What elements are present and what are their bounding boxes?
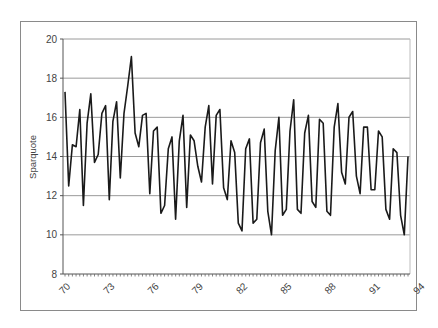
x-tick-label: 79	[190, 280, 206, 296]
sparquote-series-line	[65, 57, 408, 235]
y-tick-label: 16	[46, 112, 58, 123]
x-axis: 707376798285889194	[57, 274, 427, 296]
x-tick-label: 88	[322, 280, 338, 296]
y-tick-label: 18	[46, 73, 58, 84]
y-tick-label: 12	[46, 190, 58, 201]
y-axis: 8101214161820	[46, 34, 63, 280]
y-tick-label: 8	[51, 269, 57, 280]
y-axis-title: Sparquote	[27, 135, 38, 179]
x-tick-label: 76	[145, 280, 161, 296]
y-tick-label: 20	[46, 34, 58, 45]
x-tick-label: 85	[278, 280, 294, 296]
y-tick-label: 10	[46, 229, 58, 240]
x-tick-label: 82	[234, 280, 250, 296]
y-tick-label: 14	[46, 151, 58, 162]
line-chart: 8101214161820 707376798285889194 Sparquo…	[0, 0, 438, 328]
x-tick-label: 70	[57, 280, 73, 296]
x-tick-label: 94	[411, 280, 427, 296]
x-tick-label: 73	[101, 280, 117, 296]
gridlines	[63, 39, 410, 274]
x-tick-label: 91	[367, 280, 383, 296]
